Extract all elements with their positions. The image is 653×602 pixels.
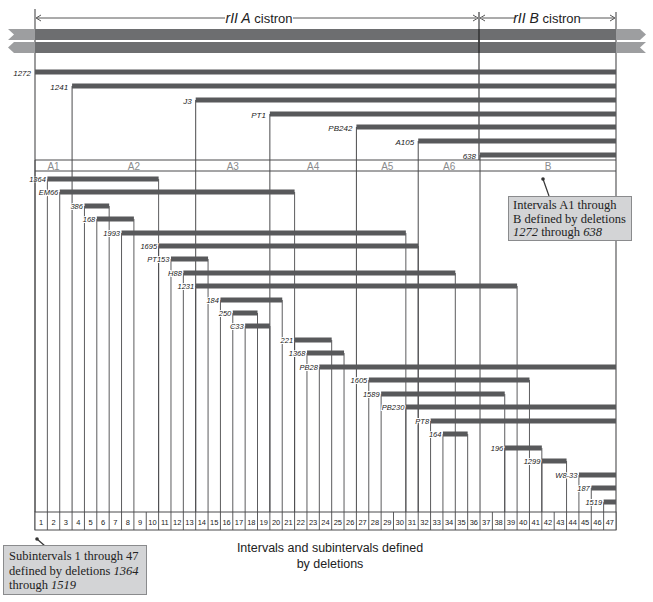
deletion-250: 250 (218, 309, 258, 512)
subinterval-15: 15 (210, 518, 218, 527)
subinterval-17: 17 (235, 518, 243, 527)
svg-text:1299: 1299 (524, 457, 542, 466)
subinterval-29: 29 (383, 518, 391, 527)
subinterval-11: 11 (161, 518, 169, 527)
callout-text: through (538, 225, 583, 239)
caption-line2: by deletions (220, 556, 440, 572)
svg-text:PB242: PB242 (328, 124, 353, 133)
deletion-1272: 1272 (13, 69, 616, 78)
deletion-1368: 1368 (289, 349, 344, 512)
subinterval-18: 18 (247, 518, 255, 527)
callout-text: defined by deletions (9, 564, 114, 578)
subinterval-24: 24 (321, 518, 329, 527)
svg-text:J3: J3 (182, 97, 192, 106)
subinterval-35: 35 (457, 518, 465, 527)
subinterval-36: 36 (470, 518, 478, 527)
figure-caption: Intervals and subintervals defined by de… (220, 540, 440, 572)
subinterval-5: 5 (89, 518, 93, 527)
interval-A5: A5 (381, 161, 394, 172)
subinterval-22: 22 (297, 518, 305, 527)
deletion-168: 168 (83, 215, 134, 512)
deletion-184: 184 (206, 296, 282, 512)
deletion-H88: H88 (168, 269, 455, 512)
svg-text:168: 168 (83, 215, 96, 224)
subinterval-13: 13 (185, 518, 193, 527)
deletion-PB28: PB28 (299, 363, 616, 512)
deletion-1241: 1241 (50, 83, 616, 161)
subinterval-26: 26 (346, 518, 354, 527)
deletion-1364: 1364 (29, 175, 158, 512)
subinterval-23: 23 (309, 518, 317, 527)
caption-line1: Intervals and subintervals defined (220, 540, 440, 556)
subinterval-8: 8 (126, 518, 130, 527)
subinterval-14: 14 (198, 518, 206, 527)
subinterval-12: 12 (173, 518, 181, 527)
subinterval-28: 28 (371, 518, 379, 527)
deletion-ref: 1272 (513, 225, 538, 239)
subinterval-32: 32 (420, 518, 428, 527)
deletion-EM66: EM66 (39, 188, 295, 512)
subinterval-20: 20 (272, 518, 280, 527)
subinterval-4: 4 (76, 518, 80, 527)
subinterval-43: 43 (556, 518, 564, 527)
interval-B: B (545, 161, 552, 172)
svg-text:PB28: PB28 (299, 363, 318, 372)
subinterval-30: 30 (395, 518, 403, 527)
svg-text:1272: 1272 (13, 69, 31, 78)
subinterval-21: 21 (284, 518, 292, 527)
subinterval-39: 39 (507, 518, 515, 527)
intervals-callout-line3: 1272 through 638 (513, 226, 627, 240)
cistron-a-label: rII A cistron (225, 10, 292, 26)
subinterval-2: 2 (51, 518, 55, 527)
deletion-164: 164 (429, 430, 468, 512)
deletion-1299: 1299 (524, 457, 567, 512)
interval-A1: A1 (47, 161, 60, 172)
interval-A2: A2 (128, 161, 141, 172)
subinterval-31: 31 (408, 518, 416, 527)
subinterval-1: 1 (39, 518, 43, 527)
interval-A3: A3 (227, 161, 240, 172)
subinterval-44: 44 (569, 518, 577, 527)
intervals-callout-line1: Intervals A1 through (513, 199, 627, 213)
subintervals-callout-line2: defined by deletions 1364 (9, 564, 141, 579)
svg-text:C33: C33 (230, 322, 245, 331)
subinterval-33: 33 (433, 518, 441, 527)
subinterval-27: 27 (358, 518, 366, 527)
major-deletions: 12721241J3PT1PB242A105638 (13, 69, 616, 161)
deletion-ref: 1364 (114, 564, 139, 578)
intervals-callout-line2: B defined by deletions (513, 213, 627, 227)
subinterval-41: 41 (531, 518, 539, 527)
subinterval-6: 6 (101, 518, 105, 527)
subintervals-callout-line3: through 1519 (9, 578, 141, 593)
svg-text:1368: 1368 (289, 349, 307, 358)
intervals-callout: Intervals A1 through B defined by deleti… (508, 196, 632, 241)
subinterval-34: 34 (445, 518, 453, 527)
subinterval-3: 3 (64, 518, 68, 527)
deletion-map-diagram: rII A cistronrII B cistron 12721241J3PT1… (0, 0, 653, 602)
subinterval-9: 9 (138, 518, 142, 527)
subintervals-callout-line1: Subintervals 1 through 47 (9, 549, 141, 564)
svg-text:187: 187 (577, 484, 590, 493)
subinterval-46: 46 (593, 518, 601, 527)
svg-text:PT1: PT1 (251, 111, 266, 120)
subintervals-callout: Subintervals 1 through 47 defined by del… (3, 545, 147, 595)
svg-text:164: 164 (429, 430, 442, 439)
subinterval-37: 37 (482, 518, 490, 527)
svg-text:1993: 1993 (103, 229, 121, 238)
deletion-638: 638 (463, 152, 616, 161)
subinterval-45: 45 (581, 518, 589, 527)
svg-text:1589: 1589 (363, 390, 381, 399)
svg-text:184: 184 (206, 296, 219, 305)
deletion-ref: 1519 (51, 578, 76, 592)
subinterval-row: 1234567891011121314151617181920212223242… (35, 512, 616, 530)
dna-double-strand (8, 29, 646, 53)
subinterval-42: 42 (544, 518, 552, 527)
subinterval-7: 7 (113, 518, 117, 527)
svg-text:1605: 1605 (351, 376, 369, 385)
svg-text:1695: 1695 (140, 242, 158, 251)
cistron-b-label: rII B cistron (513, 10, 581, 26)
subinterval-40: 40 (519, 518, 527, 527)
interval-A4: A4 (307, 161, 320, 172)
svg-text:221: 221 (280, 336, 294, 345)
callout-text: through (9, 578, 51, 592)
